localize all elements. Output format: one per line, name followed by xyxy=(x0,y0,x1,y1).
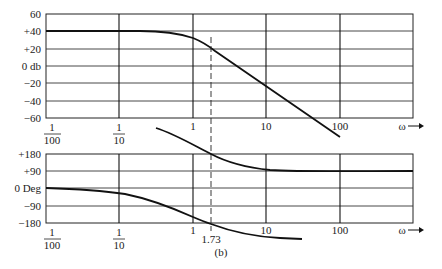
phase-curve-upper xyxy=(156,128,413,171)
phase-x-axis-labels: 1 100 1 10 1 1.73 10 100 ω xyxy=(44,224,424,251)
x-tick: 10 xyxy=(261,224,273,236)
x-tick: 10 xyxy=(261,120,273,132)
x-tick-denominator: 100 xyxy=(44,239,61,251)
omega-axis-label: ω xyxy=(398,224,405,236)
y-tick: −180 xyxy=(18,217,41,229)
y-tick: −90 xyxy=(24,200,42,212)
x-tick: 1 xyxy=(190,224,196,236)
magnitude-plot: 60 +40 +20 0 db −20 −40 −60 1 100 1 10 1… xyxy=(22,8,424,146)
phase-y-axis-labels: +180 +90 0 Deg −90 −180 xyxy=(14,148,41,229)
y-tick: −60 xyxy=(24,112,42,124)
y-tick: +40 xyxy=(24,25,42,37)
magnitude-grid xyxy=(46,14,413,118)
x-tick-numerator: 1 xyxy=(49,226,55,238)
axis-arrow-icon xyxy=(419,123,424,129)
y-tick: +90 xyxy=(24,165,42,177)
x-tick: 100 xyxy=(332,224,349,236)
x-tick-denominator: 10 xyxy=(114,239,126,251)
omega-axis-label: ω xyxy=(398,120,405,132)
y-tick: 0 db xyxy=(22,60,42,72)
x-tick-numerator: 1 xyxy=(116,121,122,133)
y-tick: 0 Deg xyxy=(14,182,41,194)
x-tick: 100 xyxy=(332,120,349,132)
bode-plot: 60 +40 +20 0 db −20 −40 −60 1 100 1 10 1… xyxy=(0,0,442,269)
x-tick-numerator: 1 xyxy=(49,121,55,133)
magnitude-y-axis-labels: 60 +40 +20 0 db −20 −40 −60 xyxy=(22,8,42,124)
x-tick-denominator: 100 xyxy=(44,134,61,146)
marker-label: 1.73 xyxy=(201,233,221,245)
y-tick: +20 xyxy=(24,43,42,55)
phase-plot: +180 +90 0 Deg −90 −180 1 100 1 10 1 1.7… xyxy=(14,128,424,251)
y-tick: −40 xyxy=(24,95,42,107)
y-tick: 60 xyxy=(30,8,42,20)
y-tick: −20 xyxy=(24,77,42,89)
x-tick: 1 xyxy=(190,120,196,132)
phase-grid xyxy=(46,154,413,223)
y-tick: +180 xyxy=(18,148,41,160)
figure-caption: (b) xyxy=(215,246,228,259)
x-tick-denominator: 10 xyxy=(114,134,126,146)
axis-arrow-icon xyxy=(419,227,424,233)
x-tick-numerator: 1 xyxy=(116,226,122,238)
magnitude-x-axis-labels: 1 100 1 10 1 10 100 ω xyxy=(44,120,424,146)
